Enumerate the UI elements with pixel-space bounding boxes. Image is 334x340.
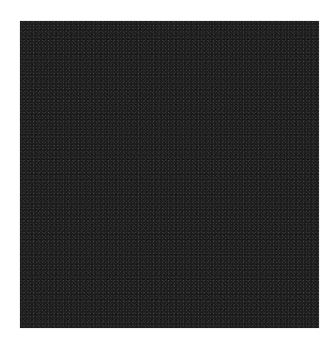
noise-texture: [20, 21, 319, 328]
dark-noise-square: [20, 21, 319, 328]
image-canvas: Dark noisy square on white background: [0, 0, 334, 340]
